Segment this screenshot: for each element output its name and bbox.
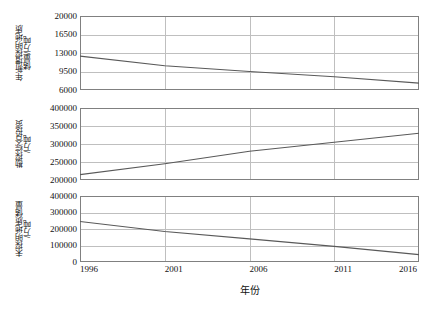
y-tick-label: 300000	[50, 208, 77, 217]
x-tick-label: 2006	[250, 265, 268, 274]
y-tick-label: 200000	[50, 176, 77, 185]
x-axis-title: 年份	[240, 282, 260, 297]
y-tick-label: 200000	[50, 225, 77, 234]
multi-panel-line-chart: 60009500130001650020000年新增探明地质 储量/万吨2000…	[0, 0, 441, 309]
y-tick-label: 350000	[50, 122, 77, 131]
y-axis-title: 年新增探明地质 储量/万吨	[16, 14, 33, 92]
y-tick-label: 250000	[50, 158, 77, 167]
x-tick-label: 2011	[334, 265, 352, 274]
y-axis-title: 未探明地质储量 /万吨	[16, 194, 33, 264]
x-tick-label: 1996	[80, 265, 98, 274]
x-tick-label: 2016	[399, 265, 417, 274]
chart-panel-2	[80, 108, 419, 180]
x-tick-label: 2001	[165, 265, 183, 274]
y-axis-title: 勘探综合投资 /万吨	[16, 106, 33, 182]
y-tick-label: 16500	[55, 30, 78, 39]
y-tick-label: 20000	[55, 12, 78, 21]
y-tick-label: 0	[73, 258, 78, 267]
y-tick-label: 400000	[50, 192, 77, 201]
y-tick-label: 100000	[50, 241, 77, 250]
chart-panel-3	[80, 196, 419, 262]
y-tick-label: 13000	[55, 49, 78, 58]
y-tick-label: 9500	[59, 67, 77, 76]
y-tick-label: 400000	[50, 104, 77, 113]
y-tick-label: 300000	[50, 140, 77, 149]
chart-panel-1	[80, 16, 419, 90]
y-tick-label: 6000	[59, 86, 77, 95]
